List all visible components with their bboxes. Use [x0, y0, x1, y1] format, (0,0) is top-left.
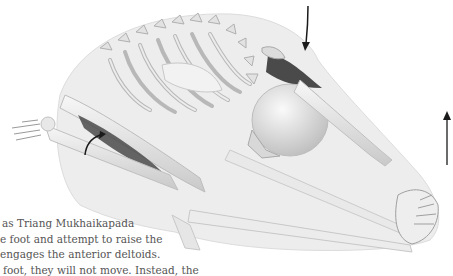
hand-left	[12, 120, 41, 140]
caption-line-3: engages the anterior deltoids.	[0, 247, 340, 263]
caption-text: as Triang Mukhaikapada e foot and attemp…	[0, 216, 340, 276]
caption-line-2: e foot and attempt to raise the	[0, 232, 340, 248]
down-arrow-shoulder	[306, 6, 308, 44]
caption-line-4: foot, they will not move. Instead, the	[0, 263, 340, 276]
up-arrow-head	[443, 111, 451, 120]
caption-line-1: as Triang Mukhaikapada	[0, 216, 340, 232]
